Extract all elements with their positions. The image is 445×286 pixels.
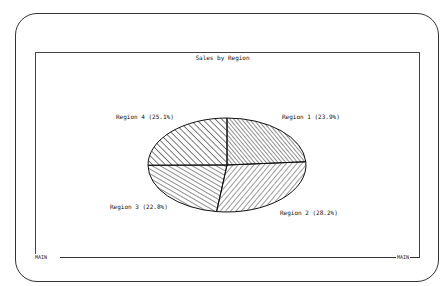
label-region-1: Region 1 (23.9%) <box>282 113 340 120</box>
pie-slices <box>148 118 306 212</box>
pie-slice-2 <box>217 162 306 212</box>
label-region-4: Region 4 (25.1%) <box>116 113 174 120</box>
pie-slice-4 <box>148 118 227 165</box>
pie-chart <box>0 0 445 286</box>
pie-slice-1 <box>227 118 306 165</box>
label-region-3: Region 3 (22.8%) <box>110 203 168 210</box>
label-region-2: Region 2 (28.2%) <box>280 209 338 216</box>
